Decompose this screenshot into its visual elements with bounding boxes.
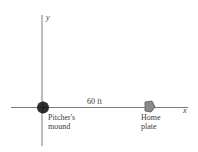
home-plate-line1: Home [141,113,161,122]
diagram-canvas [0,0,198,152]
x-axis-label: x [183,106,187,115]
y-axis-label: y [46,13,50,22]
home-plate-icon [145,101,155,112]
home-plate-label: Home plate [141,113,161,131]
home-plate-line2: plate [141,122,161,131]
pitchers-mound-line1: Pitcher's [48,113,75,122]
pitchers-mound-label: Pitcher's mound [48,113,75,131]
distance-label: 60 ft [87,97,102,106]
pitchers-mound-line2: mound [48,122,75,131]
pitchers-mound-icon [37,102,49,114]
